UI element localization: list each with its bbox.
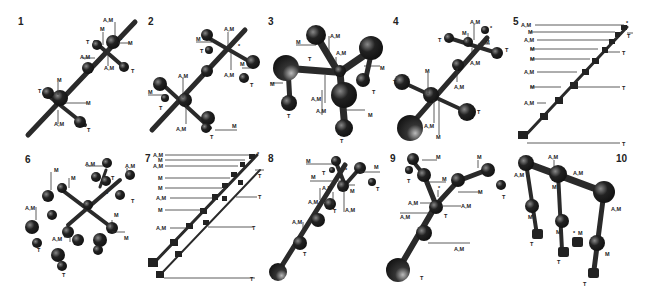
structure-label: M: [296, 39, 301, 45]
structure-label: A,M: [224, 72, 235, 78]
structure-label: A,M: [316, 108, 327, 114]
panel-5-diagram: A,M M A,M M M A,M M A,M T T T T: [518, 22, 633, 147]
structure-label: M: [528, 214, 533, 220]
marker-5: *: [626, 20, 629, 26]
structure-label: M: [232, 123, 237, 129]
structure-label: A,M: [573, 170, 584, 176]
panel-number-2: 2: [148, 16, 154, 27]
structure-label: T: [250, 82, 254, 88]
structure-label: A,M: [54, 121, 65, 127]
structure-label: T: [38, 88, 42, 94]
panel-number-9: 9: [390, 153, 396, 164]
structure-label: M: [158, 175, 163, 181]
structure-label: A,M: [400, 214, 411, 220]
structure-label: T: [111, 175, 115, 181]
structure-label: T: [438, 37, 442, 43]
structure-label: M: [86, 100, 91, 106]
structure-label: M: [528, 29, 533, 35]
structure-label: T: [407, 178, 411, 184]
structure-label: A,M: [548, 154, 559, 160]
structure-label: M: [196, 36, 201, 42]
marker-4: *: [490, 25, 493, 31]
structure-label: T: [583, 281, 587, 287]
structure-label: T: [62, 272, 66, 278]
structure-label: T: [557, 259, 561, 265]
structure-label: A,M: [311, 96, 322, 102]
structure-label: M: [311, 174, 316, 180]
structure-label: T: [622, 141, 626, 147]
structure-label: M: [530, 56, 535, 62]
panel-7-diagram: A,M M A,M M M A,M M A,M T T T T: [148, 152, 264, 282]
structure-label: A,M: [330, 33, 341, 39]
structure-label: M: [530, 46, 535, 52]
structure-label: T: [303, 251, 307, 257]
structure-label: A,M: [25, 205, 36, 211]
marker-2: *: [238, 43, 241, 49]
structure-label: A,M: [308, 199, 319, 205]
structure-label: M: [306, 158, 311, 164]
structure-label: A,M: [454, 84, 465, 90]
structure-label: M: [100, 26, 105, 32]
panel-9-diagram: M T M M M T A,M A,M A,M T A,M T: [386, 153, 506, 282]
structure-label: T: [376, 186, 380, 192]
structure-label: A,M: [156, 195, 167, 201]
panel-number-5: 5: [513, 16, 519, 27]
structure-label: A,M: [80, 54, 91, 60]
structure-label: M: [425, 68, 430, 74]
structure-label: T: [530, 241, 534, 247]
structure-label: T: [308, 56, 312, 62]
structure-label: M: [477, 154, 482, 160]
structure-label: M: [485, 39, 490, 45]
structure-label: M: [556, 229, 561, 235]
structure-label: A,M: [454, 246, 465, 252]
marker-10: *: [573, 230, 576, 236]
structure-label: T: [333, 208, 337, 214]
structure-label: A,M: [524, 37, 535, 43]
structure-label: T: [37, 247, 41, 253]
structure-label: A,M: [408, 200, 419, 206]
structure-label: T: [159, 105, 163, 111]
structure-label: T: [420, 275, 424, 281]
structure-label: T: [502, 194, 506, 200]
panel-number-7: 7: [145, 153, 151, 164]
structure-label: M: [124, 235, 129, 241]
structure-label: M: [374, 164, 379, 170]
structure-label: A,M: [322, 185, 333, 191]
panel-number-8: 8: [268, 153, 274, 164]
panel-number-4: 4: [393, 16, 399, 27]
structure-label: M: [380, 65, 385, 71]
structure-label: M: [530, 84, 535, 90]
structure-label: T: [87, 127, 91, 133]
marker-8: *: [345, 167, 348, 173]
structure-label: T: [287, 113, 291, 119]
structure-label: A,M: [85, 161, 96, 167]
structure-label: A,M: [461, 203, 472, 209]
structure-label: M: [57, 77, 62, 83]
structure-label: T: [258, 173, 262, 179]
structure-label: M: [605, 251, 610, 257]
structure-label: A,M: [156, 225, 167, 231]
panel-number-10: 10: [616, 153, 628, 164]
structure-label: M: [270, 81, 275, 87]
structure-label: A,M: [292, 219, 303, 225]
structure-label: A,M: [345, 207, 356, 213]
structure-label: T: [210, 134, 214, 140]
structure-label: M: [578, 230, 583, 236]
structure-label: M: [240, 61, 245, 67]
structure-label: M: [158, 185, 163, 191]
structure-label: T: [322, 170, 326, 176]
figure-canvas: 1 2 3 4 5 6 7 8 9 10 A,M M T M A,M A,M T…: [0, 0, 649, 297]
structure-label: M: [71, 175, 76, 181]
structure-label: M: [158, 207, 163, 213]
structure-label: A,M: [521, 22, 532, 28]
structure-label: T: [477, 109, 481, 115]
structure-label: T: [250, 276, 254, 282]
structure-label: M: [442, 176, 447, 182]
structure-label: T: [505, 47, 509, 53]
structure-label: A,M: [336, 50, 347, 56]
structure-label: M: [54, 167, 59, 173]
structure-label: M: [462, 30, 467, 36]
structure-label: A,M: [103, 17, 114, 23]
structure-label: A,M: [224, 26, 235, 32]
structure-label: M: [114, 212, 119, 218]
